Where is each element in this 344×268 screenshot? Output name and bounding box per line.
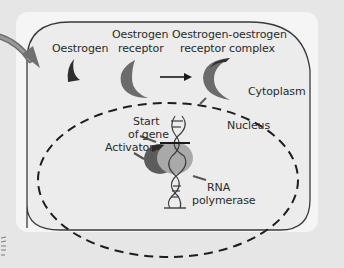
diagram-stage: Oestrogen Oestrogen receptor Oestrogen-o…	[0, 0, 344, 268]
margin-tick-marks	[1, 237, 6, 255]
label-oestrogen: Oestrogen	[52, 42, 108, 55]
label-start-line1: Start	[133, 115, 159, 128]
label-complex-line1: Oestrogen-oestrogen	[172, 28, 287, 41]
label-rna-line1: RNA	[207, 181, 230, 194]
label-start-line2: of gene	[128, 128, 169, 141]
label-receptor-line2: receptor	[118, 42, 164, 55]
label-activator: Activator	[105, 141, 154, 154]
label-rna-line2: polymerase	[192, 194, 256, 207]
label-cytoplasm: Cytoplasm	[248, 85, 306, 98]
label-nucleus: Nucleus	[227, 119, 270, 132]
label-receptor-line1: Oestrogen	[112, 28, 168, 41]
label-complex-line2: receptor complex	[180, 42, 275, 55]
